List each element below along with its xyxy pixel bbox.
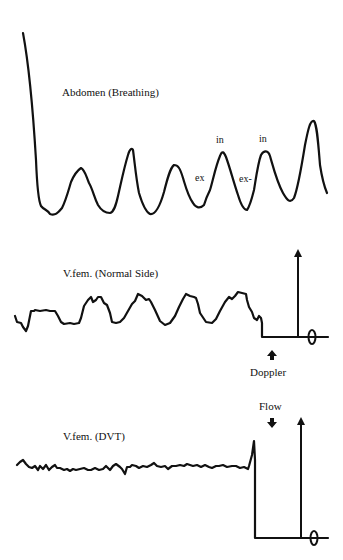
inspiration-label-2: in <box>259 133 267 144</box>
abdomen-breathing-label: Abdomen (Breathing) <box>62 86 159 98</box>
vfem-normal-trace <box>15 292 328 337</box>
expiration-label-1: ex <box>195 172 204 183</box>
inspiration-label-1: in <box>216 134 224 145</box>
vfem-normal-arrowhead-icon <box>294 249 302 257</box>
vfem-dvt-label: V.fem. (DVT) <box>63 430 125 442</box>
waveform-diagram <box>0 0 343 560</box>
flow-label: Flow <box>259 400 282 412</box>
expiration-label-2: ex- <box>239 173 252 184</box>
doppler-label: Doppler <box>250 366 286 378</box>
flow-down-arrow-icon <box>267 418 277 428</box>
vfem-dvt-arrowhead-icon <box>297 417 305 425</box>
vfem-dvt-trace <box>17 441 328 538</box>
vfem-normal-label: V.fem. (Normal Side) <box>63 267 158 279</box>
abdomen-breathing-trace <box>23 33 327 215</box>
doppler-up-arrow-icon <box>267 350 277 360</box>
